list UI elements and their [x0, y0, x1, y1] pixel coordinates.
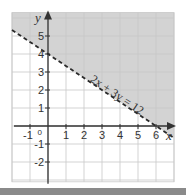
y-tick-label: -1 — [34, 138, 44, 150]
x-tick-label: 4 — [117, 129, 123, 141]
y-tick-label: -2 — [34, 156, 44, 168]
x-tick-label: 1 — [63, 129, 69, 141]
origin-label: 0 — [38, 128, 43, 137]
y-tick-label: 3 — [38, 66, 44, 78]
x-axis-label: x — [165, 128, 172, 143]
x-tick-label: 5 — [135, 129, 141, 141]
chart: -1123456-2-1123450xy2x + 3y = 12 — [0, 0, 186, 188]
y-axis-label: y — [33, 10, 41, 25]
y-tick-label: 4 — [38, 48, 44, 60]
x-tick-label: 3 — [99, 129, 105, 141]
x-tick-label: 2 — [81, 129, 87, 141]
y-tick-label: 2 — [38, 84, 44, 96]
bottom-bar — [0, 188, 186, 195]
y-tick-label: 5 — [38, 30, 44, 42]
x-tick-label: -1 — [23, 129, 33, 141]
x-tick-label: 6 — [153, 129, 159, 141]
y-tick-label: 1 — [38, 102, 44, 114]
